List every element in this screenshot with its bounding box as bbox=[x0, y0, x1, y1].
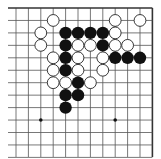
white-stone bbox=[60, 77, 72, 89]
black-stone bbox=[72, 77, 84, 89]
white-stone bbox=[47, 64, 59, 76]
go-board-grid bbox=[0, 0, 161, 159]
white-stone bbox=[72, 39, 84, 51]
white-stone bbox=[109, 15, 121, 27]
white-stone bbox=[72, 52, 84, 64]
star-point bbox=[113, 118, 117, 122]
black-stone bbox=[84, 27, 96, 39]
white-stone bbox=[97, 64, 109, 76]
black-stone bbox=[59, 39, 71, 51]
white-stone bbox=[47, 15, 59, 27]
black-stone bbox=[59, 101, 71, 113]
white-stone bbox=[47, 52, 59, 64]
white-stone bbox=[85, 39, 97, 51]
white-stone bbox=[85, 77, 97, 89]
white-stone bbox=[72, 64, 84, 76]
black-stone bbox=[109, 52, 121, 64]
white-stone bbox=[47, 77, 59, 89]
white-stone bbox=[97, 52, 109, 64]
white-stone bbox=[109, 39, 121, 51]
black-stone bbox=[97, 39, 109, 51]
black-stone bbox=[134, 52, 146, 64]
white-stone bbox=[109, 27, 121, 39]
black-stone bbox=[97, 27, 109, 39]
black-stone bbox=[121, 52, 133, 64]
white-stone bbox=[122, 39, 134, 51]
white-stone bbox=[35, 39, 47, 51]
star-point bbox=[39, 118, 43, 122]
black-stone bbox=[59, 52, 71, 64]
black-stone bbox=[72, 89, 84, 101]
black-stone bbox=[59, 27, 71, 39]
white-stone bbox=[35, 27, 47, 39]
black-stone bbox=[72, 27, 84, 39]
white-stone bbox=[134, 15, 146, 27]
black-stone bbox=[59, 89, 71, 101]
go-board bbox=[0, 0, 161, 159]
black-stone bbox=[59, 64, 71, 76]
